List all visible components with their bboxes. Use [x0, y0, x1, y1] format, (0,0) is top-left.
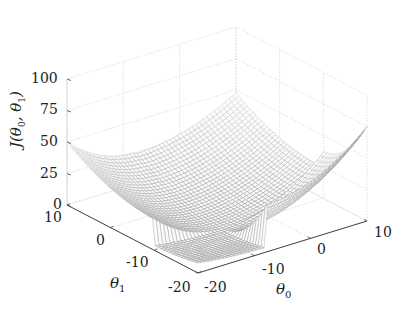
z-axis-label: J(θ0, θ1)	[7, 91, 27, 148]
z-tick-50: 50	[40, 134, 58, 148]
theta0-tick-minus10: -10	[262, 262, 285, 276]
theta1-tick-10: 10	[44, 210, 62, 224]
z-tick-25: 25	[40, 166, 58, 180]
theta1-tick-minus20: -20	[168, 280, 191, 294]
z-tick-75: 75	[40, 102, 58, 116]
theta0-axis-label: θ0	[276, 280, 291, 300]
surface-plot	[0, 0, 408, 313]
theta1-axis-label: θ1	[110, 274, 125, 294]
theta0-tick-0: 0	[317, 242, 326, 256]
theta1-tick-0: 0	[96, 233, 105, 247]
cost-surface	[67, 93, 367, 263]
theta0-tick-10: 10	[374, 225, 392, 239]
theta0-tick-minus20: -20	[204, 280, 227, 294]
z-tick-100: 100	[31, 71, 58, 85]
theta1-tick-minus10: -10	[126, 255, 149, 269]
